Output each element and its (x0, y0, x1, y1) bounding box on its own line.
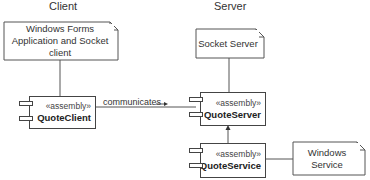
component-icon (189, 112, 203, 117)
service-note-text: Windows Service (294, 147, 360, 171)
server-note: Socket Server (197, 30, 259, 57)
component-icon (189, 97, 203, 102)
client-column-label: Client (49, 0, 77, 12)
component-quote-service[interactable]: «assembly» QuoteService (200, 143, 266, 178)
windows-service-note: Windows Service (294, 143, 360, 174)
component-name: QuoteClient (37, 112, 91, 124)
component-quote-client[interactable]: «assembly» QuoteClient (29, 96, 96, 129)
server-note-text: Socket Server (198, 38, 258, 50)
stereotype-label: «assembly» (216, 149, 261, 160)
server-column-label: Server (214, 0, 246, 12)
client-note-text: Windows Forms Application and Socket cli… (6, 23, 114, 59)
component-icon (189, 148, 203, 153)
component-name: QuoteService (200, 160, 261, 172)
stereotype-label: «assembly» (46, 101, 91, 112)
client-note: Windows Forms Application and Socket cli… (6, 24, 114, 58)
component-quote-server[interactable]: «assembly» QuoteServer (200, 92, 266, 126)
component-icon (189, 163, 203, 168)
component-icon (19, 116, 33, 121)
stereotype-label: «assembly» (216, 98, 261, 109)
component-name: QuoteServer (204, 109, 261, 121)
communicates-label: communicates (103, 97, 161, 107)
component-icon (19, 101, 33, 106)
